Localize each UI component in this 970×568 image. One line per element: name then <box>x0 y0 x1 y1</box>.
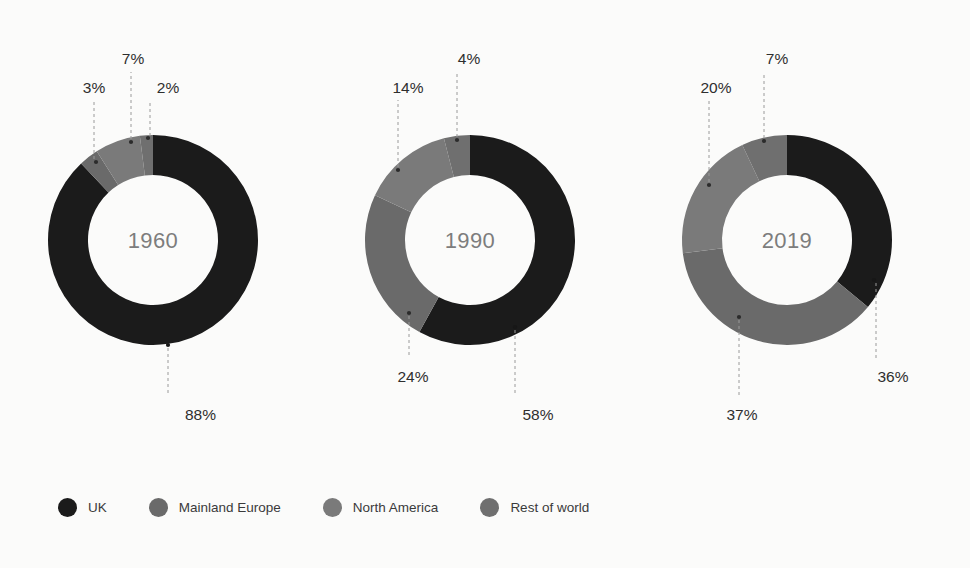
legend-label: North America <box>353 500 439 515</box>
donut-2019: 36%37%20%7%2019 <box>682 50 909 423</box>
donut-slice[interactable] <box>683 248 868 345</box>
slice-anchor-dot <box>166 343 170 347</box>
donut-slice[interactable] <box>365 195 439 332</box>
donut-slice[interactable] <box>787 135 892 307</box>
donut-slice[interactable] <box>682 145 759 253</box>
donut-center-year-label: 1960 <box>128 228 179 253</box>
slice-anchor-dot <box>513 325 517 329</box>
slice-anchor-dot <box>872 278 876 282</box>
chart-legend: UKMainland EuropeNorth AmericaRest of wo… <box>58 498 631 517</box>
slice-anchor-dot <box>762 139 766 143</box>
slice-anchor-dot <box>407 311 411 315</box>
slice-anchor-dot <box>129 140 133 144</box>
legend-item[interactable]: Rest of world <box>480 498 589 517</box>
legend-label: UK <box>88 500 107 515</box>
slice-anchor-dot <box>146 136 150 140</box>
slice-percent-label: 14% <box>392 79 423 96</box>
donut-1960: 88%3%7%2%1960 <box>48 50 258 423</box>
legend-swatch-icon <box>58 498 77 517</box>
slice-percent-label: 37% <box>726 406 757 423</box>
legend-swatch-icon <box>480 498 499 517</box>
slice-percent-label: 7% <box>122 50 145 67</box>
slice-percent-label: 58% <box>522 406 553 423</box>
slice-percent-label: 7% <box>766 50 789 67</box>
donut-charts-svg: 88%3%7%2%196058%24%14%4%199036%37%20%7%2… <box>0 0 970 568</box>
slice-anchor-dot <box>94 160 98 164</box>
legend-item[interactable]: Mainland Europe <box>149 498 281 517</box>
slice-percent-label: 20% <box>700 79 731 96</box>
donut-center-year-label: 2019 <box>762 228 813 253</box>
slice-anchor-dot <box>707 183 711 187</box>
slice-percent-label: 4% <box>458 50 481 67</box>
legend-label: Rest of world <box>510 500 589 515</box>
legend-label: Mainland Europe <box>179 500 281 515</box>
slice-percent-label: 2% <box>157 79 180 96</box>
slice-percent-label: 24% <box>397 368 428 385</box>
slice-anchor-dot <box>737 315 741 319</box>
slice-anchor-dot <box>455 138 459 142</box>
donut-center-year-label: 1990 <box>445 228 496 253</box>
slice-anchor-dot <box>396 168 400 172</box>
legend-swatch-icon <box>149 498 168 517</box>
slice-percent-label: 88% <box>185 406 216 423</box>
slice-percent-label: 3% <box>83 79 106 96</box>
legend-item[interactable]: UK <box>58 498 107 517</box>
slice-percent-label: 36% <box>877 368 908 385</box>
legend-item[interactable]: North America <box>323 498 439 517</box>
legend-swatch-icon <box>323 498 342 517</box>
chart-canvas: 88%3%7%2%196058%24%14%4%199036%37%20%7%2… <box>0 0 970 568</box>
donut-1990: 58%24%14%4%1990 <box>365 50 575 423</box>
